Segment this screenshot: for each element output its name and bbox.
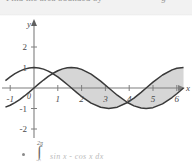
graph-svg: -1123456 -2-112 0 x y — [0, 16, 192, 140]
svg-text:1: 1 — [23, 63, 28, 73]
x-axis-label: x — [185, 83, 190, 93]
svg-text:6: 6 — [175, 94, 180, 104]
y-axis-arrow — [31, 19, 37, 26]
svg-text:5: 5 — [151, 94, 156, 104]
screenshot-root: Find the area bounded by g — [0, 0, 192, 163]
svg-text:3: 3 — [102, 94, 108, 104]
svg-text:1: 1 — [56, 94, 61, 104]
svg-text:-1: -1 — [6, 94, 14, 104]
clipped-heading-text: Find the area bounded by — [6, 0, 102, 3]
svg-text:-1: -1 — [20, 104, 28, 114]
integral-sign: ∫ — [37, 145, 41, 158]
graph-figure: -1123456 -2-112 0 x y — [0, 16, 192, 140]
bullet-marker — [22, 153, 25, 156]
svg-text:2: 2 — [79, 94, 84, 104]
bottom-fade-mask — [0, 158, 192, 163]
svg-text:-2: -2 — [20, 124, 28, 134]
clipped-heading-symbol: g — [162, 0, 167, 3]
y-axis-label: y — [26, 19, 31, 29]
svg-text:4: 4 — [127, 94, 132, 104]
clipped-heading-bar: Find the area bounded by g — [0, 0, 192, 15]
svg-text:2: 2 — [23, 42, 28, 52]
origin-label: 0 — [27, 92, 31, 101]
